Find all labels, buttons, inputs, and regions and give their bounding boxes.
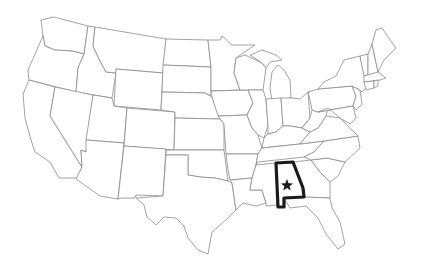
us-map — [0, 0, 422, 273]
state-montana[interactable] — [93, 27, 166, 73]
state-new-mexico[interactable] — [118, 146, 166, 199]
state-connecticut[interactable] — [364, 81, 374, 90]
states — [23, 17, 396, 254]
state-south-dakota[interactable] — [162, 65, 211, 96]
state-north-dakota[interactable] — [163, 39, 211, 67]
state-colorado[interactable] — [124, 108, 175, 150]
state-kansas[interactable] — [174, 118, 224, 150]
state-new-york[interactable] — [318, 56, 366, 92]
state-rhode-island[interactable] — [374, 80, 378, 88]
state-florida[interactable] — [284, 197, 345, 249]
state-wyoming[interactable] — [114, 69, 163, 110]
state-iowa[interactable] — [211, 90, 253, 116]
